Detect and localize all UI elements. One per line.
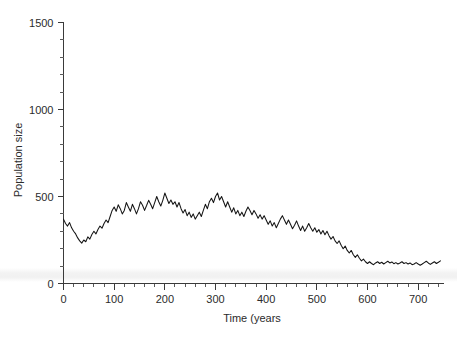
x-tick-label-300: 300	[206, 293, 224, 305]
y-tick-label-1000: 1000	[29, 104, 53, 116]
x-tick-label-100: 100	[105, 293, 123, 305]
population-time-line-chart: 050010001500 0100200300400500600700 Time…	[0, 0, 457, 339]
x-tick-label-200: 200	[156, 293, 174, 305]
y-tick-label-500: 500	[35, 191, 53, 203]
x-tick-label-500: 500	[308, 293, 326, 305]
y-tick-label-0: 0	[47, 278, 53, 290]
x-tick-label-0: 0	[60, 293, 66, 305]
y-axis: 050010001500	[29, 17, 63, 290]
data-series-population-size	[64, 193, 441, 265]
x-tick-label-400: 400	[257, 293, 275, 305]
series-path-population-size	[64, 193, 441, 265]
y-tick-label-1500: 1500	[29, 17, 53, 29]
x-tick-label-600: 600	[358, 293, 376, 305]
x-tick-label-700: 700	[409, 293, 427, 305]
y-axis-title: Population size	[12, 123, 24, 198]
chart-figure: 050010001500 0100200300400500600700 Time…	[0, 0, 457, 339]
x-axis-title: Time (years	[223, 312, 281, 324]
x-axis: 0100200300400500600700	[60, 284, 443, 305]
